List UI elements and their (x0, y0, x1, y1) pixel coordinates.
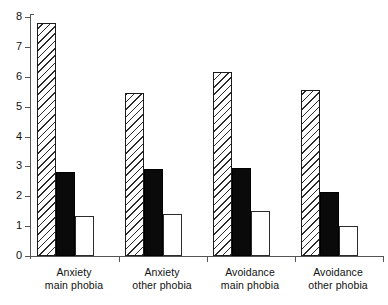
x-separator-4 (383, 256, 384, 262)
y-tick-label-6: 6 (0, 71, 22, 82)
bar-chart: 012345678 Anxietymain phobiaAnxietyother… (0, 0, 388, 305)
bar-hatched-2 (125, 93, 144, 256)
bar-solid-black-2 (144, 169, 163, 256)
x-separator-3 (295, 256, 296, 262)
y-tick-label-2: 2 (0, 190, 22, 201)
category-label-line1: Avoidance (294, 266, 382, 279)
y-tick-0 (25, 256, 31, 257)
category-label-3: Avoidancemain phobia (206, 266, 294, 291)
bar-hatched-3 (213, 72, 232, 256)
y-tick-label-7: 7 (0, 41, 22, 52)
bar-open-white-3 (251, 211, 270, 256)
bar-hatched-4 (301, 90, 320, 256)
x-separator-2 (207, 256, 208, 262)
y-axis-top-cap (30, 14, 34, 15)
category-label-line1: Anxiety (118, 266, 206, 279)
category-label-line1: Avoidance (206, 266, 294, 279)
y-tick-label-5: 5 (0, 101, 22, 112)
x-separator-1 (119, 256, 120, 262)
bar-open-white-4 (339, 226, 358, 256)
bar-solid-black-3 (232, 168, 251, 256)
category-label-line1: Anxiety (30, 266, 118, 279)
y-tick-label-8: 8 (0, 11, 22, 22)
category-label-2: Anxietyother phobia (118, 266, 206, 291)
category-label-line2: other phobia (118, 279, 206, 292)
bar-solid-black-4 (320, 192, 339, 256)
y-tick-label-0: 0 (0, 250, 22, 261)
bar-open-white-2 (163, 214, 182, 256)
y-tick-label-3: 3 (0, 160, 22, 171)
plot-area (31, 17, 383, 256)
category-label-line2: main phobia (30, 279, 118, 292)
y-tick-label-1: 1 (0, 220, 22, 231)
bar-hatched-1 (37, 23, 56, 256)
category-label-1: Anxietymain phobia (30, 266, 118, 291)
x-axis-category-labels: Anxietymain phobiaAnxietyother phobiaAvo… (30, 266, 383, 304)
category-label-4: Avoidanceother phobia (294, 266, 382, 291)
bar-solid-black-1 (56, 172, 75, 256)
y-tick-label-4: 4 (0, 131, 22, 142)
bar-open-white-1 (75, 216, 94, 256)
category-label-line2: main phobia (206, 279, 294, 292)
category-label-line2: other phobia (294, 279, 382, 292)
